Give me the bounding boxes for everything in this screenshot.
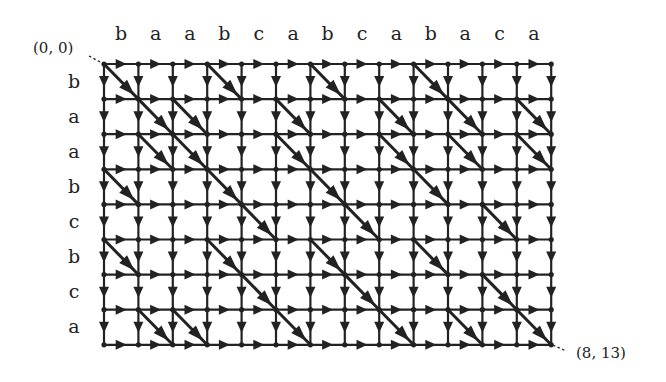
column-label: b	[115, 22, 127, 44]
arrowhead-icon	[477, 287, 487, 298]
arrowhead-icon	[460, 305, 471, 315]
arrowhead-icon	[425, 59, 436, 69]
grid-node	[411, 97, 416, 102]
arrowhead-icon	[357, 340, 368, 350]
arrowhead-icon	[477, 181, 487, 192]
arrowhead-icon	[99, 216, 109, 227]
arrowhead-icon	[494, 305, 505, 315]
arrowhead-icon	[357, 305, 368, 315]
arrowhead-icon	[409, 252, 419, 263]
arrowhead-icon	[340, 252, 350, 263]
arrowhead-icon	[150, 235, 161, 245]
arrowhead-icon	[494, 94, 505, 104]
grid-node	[514, 237, 519, 242]
arrowhead-icon	[305, 322, 315, 333]
row-label: b	[68, 175, 80, 197]
arrowhead-icon	[253, 94, 264, 104]
grid-node	[514, 342, 519, 347]
grid-node	[445, 272, 450, 277]
grid-node	[377, 342, 382, 347]
arrowhead-icon	[512, 216, 522, 227]
grid-node	[308, 237, 313, 242]
grid-node	[308, 167, 313, 172]
arrowhead-icon	[529, 94, 540, 104]
grid-node	[239, 202, 244, 207]
grid-node	[514, 132, 519, 137]
column-label: a	[391, 22, 402, 44]
arrowhead-icon	[357, 94, 368, 104]
arrowhead-icon	[546, 216, 556, 227]
grid-node	[239, 342, 244, 347]
arrowhead-icon	[460, 270, 471, 280]
arrowhead-icon	[494, 235, 505, 245]
grid-node	[273, 132, 278, 137]
arrowhead-icon	[409, 111, 419, 122]
start-coordinate-label: (0, 0)	[33, 39, 73, 57]
arrowhead-icon	[271, 322, 281, 333]
grid-node	[239, 272, 244, 277]
grid-node	[239, 132, 244, 137]
arrowhead-icon	[168, 181, 178, 192]
grid-node	[101, 202, 106, 207]
column-labels: baabcabcabaca	[115, 22, 540, 44]
arrowhead-icon	[460, 59, 471, 69]
arrowhead-icon	[288, 94, 299, 104]
grid-node	[377, 132, 382, 137]
arrowhead-icon	[357, 59, 368, 69]
arrowhead-icon	[512, 146, 522, 157]
arrowhead-icon	[512, 252, 522, 263]
column-label: a	[528, 22, 539, 44]
grid-node	[342, 307, 347, 312]
arrowhead-icon	[288, 199, 299, 209]
arrowhead-icon	[288, 164, 299, 174]
grid-node	[445, 97, 450, 102]
grid-node	[411, 132, 416, 137]
grid-node	[377, 167, 382, 172]
arrowhead-icon	[202, 146, 212, 157]
grid-node	[549, 132, 554, 137]
arrowhead-icon	[340, 146, 350, 157]
grid-node	[411, 61, 416, 66]
arrowhead-icon	[529, 235, 540, 245]
arrowhead-icon	[340, 181, 350, 192]
column-label: c	[253, 22, 264, 44]
row-label: a	[68, 315, 79, 337]
grid-node	[101, 97, 106, 102]
row-label: c	[69, 210, 80, 232]
arrowhead-icon	[150, 94, 161, 104]
grid-node	[273, 342, 278, 347]
grid-node	[170, 272, 175, 277]
grid-node	[239, 237, 244, 242]
grid-node	[342, 61, 347, 66]
grid-node	[273, 272, 278, 277]
arrowhead-icon	[529, 340, 540, 350]
arrowhead-icon	[374, 181, 384, 192]
arrowhead-icon	[391, 199, 402, 209]
arrowhead-icon	[512, 287, 522, 298]
arrowhead-icon	[443, 76, 453, 87]
row-labels: baabcbca	[68, 70, 80, 338]
arrowhead-icon	[546, 287, 556, 298]
arrowhead-icon	[237, 111, 247, 122]
grid-node	[170, 167, 175, 172]
arrowhead-icon	[425, 199, 436, 209]
arrowhead-icon	[219, 129, 230, 139]
arrowhead-icon	[340, 111, 350, 122]
grid-node	[342, 237, 347, 242]
grid-node	[136, 272, 141, 277]
grid-node	[549, 342, 554, 347]
grid-node	[308, 272, 313, 277]
arrowhead-icon	[168, 216, 178, 227]
arrowhead-icon	[99, 287, 109, 298]
arrowhead-icon	[443, 216, 453, 227]
grid-node	[549, 167, 554, 172]
arrowhead-icon	[357, 270, 368, 280]
grid-node	[377, 97, 382, 102]
arrowhead-icon	[133, 287, 143, 298]
arrowhead-icon	[409, 146, 419, 157]
arrowhead-icon	[425, 305, 436, 315]
arrowhead-icon	[357, 199, 368, 209]
arrowhead-icon	[253, 129, 264, 139]
grid-node	[514, 202, 519, 207]
arrowhead-icon	[237, 76, 247, 87]
